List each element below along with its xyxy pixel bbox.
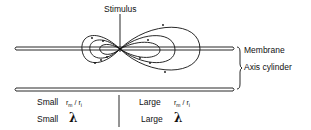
right-lambda-word: Large bbox=[141, 115, 163, 124]
left-current-loops bbox=[82, 36, 120, 63]
left-ratio: rm / ri bbox=[66, 99, 82, 108]
left-lambda-word: Small bbox=[37, 115, 58, 124]
axis-cylinder-brace bbox=[237, 47, 242, 89]
lower-membrane bbox=[15, 88, 234, 91]
left-size-word: Small bbox=[37, 98, 58, 107]
ratio-slash: / bbox=[74, 99, 76, 106]
left-lambda-symbol: λ bbox=[69, 112, 77, 124]
right-lambda-symbol: λ bbox=[174, 112, 182, 124]
right-size-word: Large bbox=[139, 98, 161, 107]
axis-cylinder-label: Axis cylinder bbox=[244, 63, 292, 72]
right-current-loops bbox=[120, 27, 200, 70]
ratio-slash: / bbox=[182, 99, 184, 106]
ratio-m-sub: m bbox=[68, 102, 72, 108]
ratio-i-sub: i bbox=[189, 102, 190, 108]
stimulus-label: Stimulus bbox=[104, 5, 137, 14]
ratio-m-sub: m bbox=[176, 102, 180, 108]
upper-membrane bbox=[15, 47, 234, 50]
right-ratio: rm / ri bbox=[174, 99, 190, 108]
ratio-i-sub: i bbox=[81, 102, 82, 108]
membrane-label: Membrane bbox=[244, 46, 285, 55]
flow-arrows bbox=[91, 24, 166, 73]
